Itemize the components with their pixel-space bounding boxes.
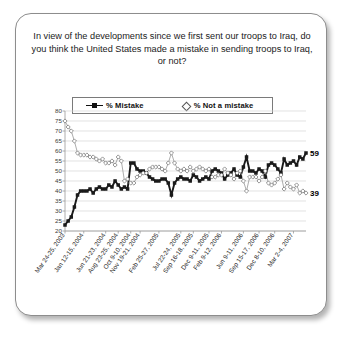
end-label-mistake: 59	[310, 149, 319, 158]
data-point-not-a-mistake	[169, 151, 173, 155]
data-point-mistake	[79, 189, 83, 193]
data-point-mistake	[232, 167, 236, 171]
data-point-mistake	[88, 187, 92, 191]
data-point-mistake	[304, 151, 308, 155]
data-point-not-a-mistake	[132, 181, 136, 185]
data-point-mistake	[257, 167, 261, 171]
data-point-mistake	[251, 169, 255, 173]
data-point-mistake	[91, 191, 95, 195]
y-axis-tick-label: 35	[55, 197, 62, 204]
data-point-mistake	[223, 177, 227, 181]
data-point-mistake	[188, 179, 192, 183]
y-axis-tick-label: 45	[55, 177, 62, 184]
data-point-mistake	[201, 177, 205, 181]
data-point-mistake	[82, 189, 86, 193]
data-point-mistake	[248, 169, 252, 173]
data-point-mistake	[123, 185, 127, 189]
data-point-mistake	[182, 177, 186, 181]
data-point-mistake	[204, 175, 208, 179]
y-axis-tick-label: 30	[55, 207, 62, 214]
data-point-mistake	[63, 223, 67, 227]
data-point-mistake	[295, 163, 299, 167]
chart-card: In view of the developments since we fir…	[15, 13, 327, 316]
y-axis-tick-label: 75	[55, 117, 62, 124]
data-point-not-a-mistake	[72, 139, 76, 143]
data-point-mistake	[292, 159, 296, 163]
data-point-mistake	[98, 185, 102, 189]
data-point-mistake	[126, 187, 130, 191]
data-point-mistake	[285, 163, 289, 167]
data-point-mistake	[120, 187, 124, 191]
data-point-mistake	[289, 161, 293, 165]
end-label-not-a-mistake: 39	[310, 189, 319, 198]
y-axis-tick-label: 50	[55, 167, 62, 174]
data-point-mistake	[195, 175, 199, 179]
data-point-mistake	[245, 155, 249, 159]
data-point-mistake	[138, 169, 142, 173]
data-point-mistake	[239, 175, 243, 179]
data-point-mistake	[85, 189, 89, 193]
data-point-mistake	[157, 179, 161, 183]
data-point-mistake	[167, 181, 171, 185]
data-point-mistake	[213, 167, 217, 171]
data-point-mistake	[198, 179, 202, 183]
data-point-mistake	[301, 157, 305, 161]
data-point-not-a-mistake	[282, 187, 286, 191]
y-axis-tick-label: 70	[55, 127, 62, 134]
data-point-mistake	[176, 177, 180, 181]
data-point-mistake	[160, 177, 164, 181]
data-point-mistake	[113, 179, 117, 183]
data-point-mistake	[132, 161, 136, 165]
data-point-mistake	[217, 169, 221, 173]
data-point-mistake	[254, 171, 257, 175]
screenshot-root: In view of the developments since we fir…	[0, 0, 346, 337]
data-point-not-a-mistake	[166, 161, 170, 165]
y-axis-tick-label: 80	[55, 107, 62, 114]
data-point-mistake	[101, 187, 105, 191]
data-point-not-a-mistake	[172, 161, 176, 165]
data-point-mistake	[242, 165, 246, 169]
data-point-mistake	[170, 193, 174, 197]
data-point-mistake	[129, 161, 133, 165]
y-axis-tick-label: 25	[55, 217, 62, 224]
data-point-not-a-mistake	[244, 189, 248, 193]
data-point-not-a-mistake	[241, 179, 245, 183]
data-point-mistake	[185, 177, 189, 181]
data-point-mistake	[151, 177, 155, 181]
data-point-mistake	[110, 185, 114, 189]
data-point-mistake	[179, 175, 183, 179]
data-point-mistake	[282, 157, 286, 161]
data-point-mistake	[70, 215, 74, 219]
data-point-mistake	[270, 161, 274, 165]
data-point-mistake	[76, 193, 80, 197]
data-point-mistake	[163, 177, 167, 181]
y-axis-tick-label: 55	[55, 157, 62, 164]
data-point-mistake	[66, 219, 70, 223]
y-axis-tick-label: 60	[55, 147, 62, 154]
data-point-mistake	[210, 169, 214, 173]
data-point-mistake	[267, 163, 271, 167]
data-point-mistake	[273, 163, 277, 167]
data-point-not-a-mistake	[63, 119, 67, 123]
data-point-mistake	[135, 167, 139, 171]
data-point-mistake	[107, 183, 111, 187]
data-point-mistake	[276, 167, 280, 171]
data-point-mistake	[207, 177, 211, 181]
data-point-mistake	[95, 187, 99, 191]
data-point-mistake	[116, 183, 120, 187]
data-point-mistake	[298, 155, 302, 159]
data-point-mistake	[73, 205, 77, 209]
data-point-mistake	[192, 173, 196, 177]
data-point-mistake	[154, 179, 158, 183]
y-axis-tick-label: 65	[55, 137, 62, 144]
data-point-mistake	[173, 181, 177, 185]
chart-plot-area: 202530354045505560657075805939Mar 24-25,…	[16, 14, 327, 316]
y-axis-tick-label: 40	[55, 187, 62, 194]
line-chart: 202530354045505560657075805939Mar 24-25,…	[16, 14, 327, 316]
data-point-mistake	[104, 187, 108, 191]
data-point-mistake	[148, 175, 152, 179]
